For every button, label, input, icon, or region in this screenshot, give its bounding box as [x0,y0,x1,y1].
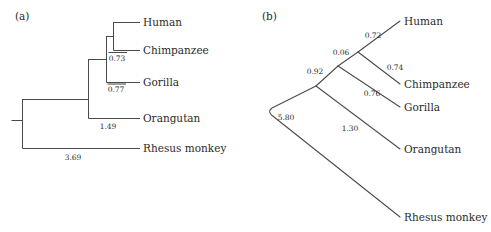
panel-b-label: (b) [262,10,277,22]
panel-a-label: (a) [15,10,29,22]
panel-b-taxon-chimpanzee: Chimpanzee [404,78,470,90]
panel-b-branch-gorilla [338,66,400,107]
panel-b: (b) 0.72 0.06 0.74 0.92 0.76 1.30 5.80 H… [262,10,487,223]
panel-b-branch-length-label-3: 0.92 [307,67,324,76]
panel-b-branch-length-label-6: 5.80 [278,113,295,122]
panel-b-taxon-gorilla: Gorilla [404,101,440,113]
panel-b-branch-length-label-1: 0.06 [333,48,350,57]
figure-canvas: (a) [0,0,491,232]
panel-a-taxon-chimpanzee: Chimpanzee [143,44,209,56]
panel-a-taxon-human: Human [143,16,182,28]
panel-a-branch-length-label-0: 0.73 [109,54,126,63]
panel-b-root-fork [270,86,400,217]
panel-a-taxon-gorilla: Gorilla [143,76,179,88]
panel-b-taxon-rhesus-monkey: Rhesus monkey [404,211,487,223]
panel-a-branch-length-1: 0.77 [108,84,127,94]
panel-b-branch-length-label-0: 0.72 [365,31,382,40]
panel-a-taxon-orangutan: Orangutan [143,112,201,124]
panel-a-branch-length-label-3: 3.69 [65,153,82,162]
panel-a-branch-length-label-1: 0.77 [108,85,125,94]
phylogenetic-tree-figure: (a) [0,0,491,232]
panel-a-branch-length-label-2: 1.49 [100,122,117,131]
panel-b-taxon-orangutan: Orangutan [404,143,462,155]
panel-a-taxon-rhesus-monkey: Rhesus monkey [143,142,226,154]
panel-a: (a) [12,10,227,162]
panel-b-taxon-human: Human [404,15,443,27]
panel-b-branch-length-label-2: 0.74 [387,63,404,72]
panel-b-branch-length-label-4: 0.76 [364,89,381,98]
panel-b-branch-length-label-5: 1.30 [342,124,359,133]
panel-b-branch-orangutan [316,86,400,149]
panel-a-branch-length-0: 0.73 [109,53,128,63]
